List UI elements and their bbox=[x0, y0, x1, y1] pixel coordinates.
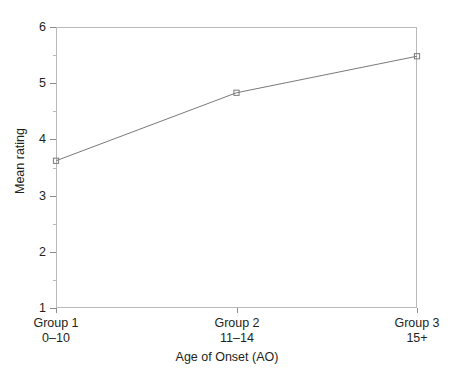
figure-canvas: 6 5 4 3 2 1 Mean rating Group 1 0–10 Gro… bbox=[0, 0, 454, 381]
series-layer bbox=[0, 0, 454, 381]
series-line-mean-rating bbox=[56, 56, 417, 161]
data-point-marker bbox=[53, 158, 58, 163]
series-markers-mean-rating bbox=[53, 54, 419, 164]
